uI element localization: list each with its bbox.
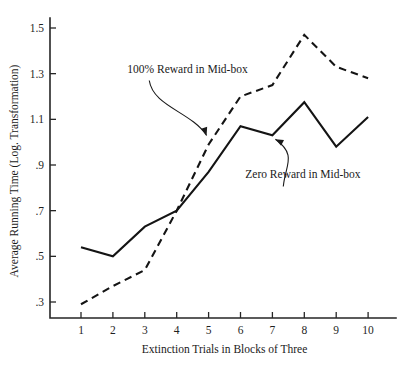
x-tick-label: 9 — [333, 324, 339, 336]
y-tick-label: .9 — [35, 159, 44, 171]
line-chart: .3.5.7.91.11.31.512345678910Extinction T… — [0, 0, 406, 369]
annotation-label: Zero Reward in Mid-box — [245, 168, 361, 180]
x-tick-label: 7 — [270, 324, 276, 336]
annotation-label: 100% Reward in Mid-box — [127, 63, 248, 75]
x-tick-label: 4 — [174, 324, 180, 336]
y-tick-label: .3 — [35, 296, 44, 308]
x-tick-label: 8 — [301, 324, 307, 336]
y-tick-label: .5 — [35, 250, 44, 262]
y-tick-label: 1.5 — [30, 22, 45, 34]
annotation-leader-line — [149, 81, 206, 136]
y-tick-label: .7 — [35, 205, 44, 217]
x-tick-label: 2 — [110, 324, 116, 336]
x-tick-label: 5 — [206, 324, 212, 336]
x-tick-label: 6 — [238, 324, 244, 336]
y-axis-title: Average Running Time (Log. Transformatio… — [8, 64, 21, 277]
y-tick-label: 1.1 — [30, 113, 45, 125]
x-tick-label: 1 — [78, 324, 84, 336]
x-tick-label: 10 — [362, 324, 374, 336]
x-tick-label: 3 — [142, 324, 148, 336]
chart-figure: .3.5.7.91.11.31.512345678910Extinction T… — [0, 0, 406, 369]
x-axis-title: Extinction Trials in Blocks of Three — [142, 343, 308, 355]
annotation-arrow-icon — [201, 127, 207, 136]
y-tick-label: 1.3 — [30, 68, 45, 80]
annotation-arrow-icon — [275, 139, 284, 145]
